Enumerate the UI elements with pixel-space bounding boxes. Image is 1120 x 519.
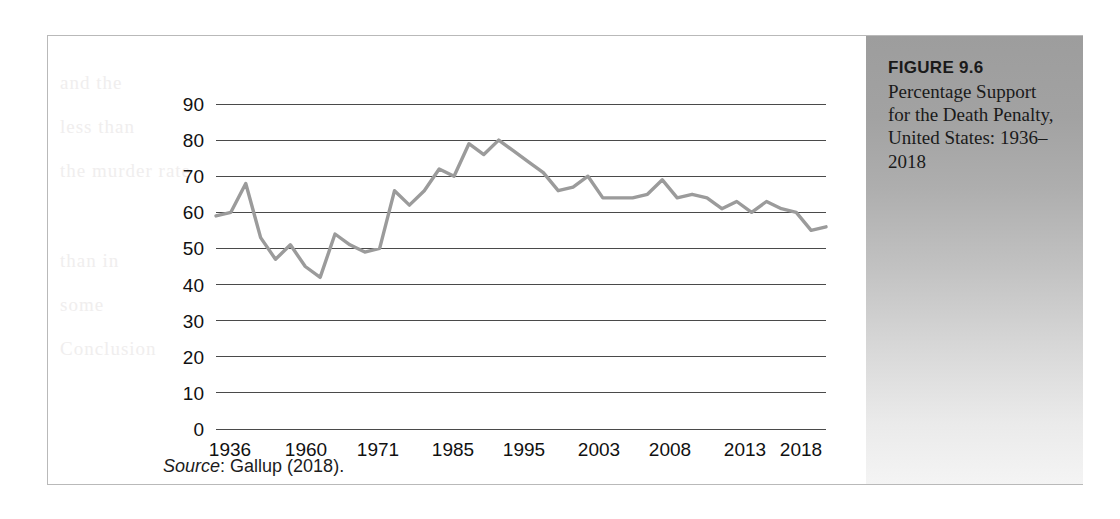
figure-caption-box: FIGURE 9.6 Percentage Support for the De… [866, 36, 1083, 484]
y-axis-tick-label: 30 [183, 311, 204, 332]
y-axis-tick-label: 0 [193, 419, 204, 440]
y-axis-tick-label: 70 [183, 166, 204, 187]
figure-caption-text: Percentage Support for the Death Penalty… [888, 80, 1063, 173]
x-axis-tick-label: 2008 [649, 439, 691, 460]
y-axis-tick-label: 60 [183, 202, 204, 223]
y-axis-tick-label: 50 [183, 238, 204, 259]
source-label: Source [163, 456, 220, 476]
source-separator: : [220, 456, 230, 476]
y-axis-tick-label: 40 [183, 275, 204, 296]
y-axis-tick-label: 90 [183, 94, 204, 115]
x-axis-tick-label: 1971 [357, 439, 399, 460]
source-text: Gallup (2018). [230, 456, 344, 476]
figure-number-label: FIGURE 9.6 [888, 58, 1063, 78]
figure-frame: 0102030405060708090193619601971198519952… [47, 35, 1083, 485]
y-axis-tick-label: 80 [183, 130, 204, 151]
x-axis-tick-label: 2018 [780, 439, 822, 460]
figure-caption-inner: FIGURE 9.6 Percentage Support for the De… [888, 58, 1063, 173]
chart-plot-area: 0102030405060708090193619601971198519952… [48, 36, 866, 484]
y-axis-tick-label: 10 [183, 383, 204, 404]
chart-source-note: Source: Gallup (2018). [163, 456, 344, 477]
line-chart: 0102030405060708090193619601971198519952… [48, 36, 866, 484]
x-axis-tick-label: 2013 [724, 439, 766, 460]
x-axis-tick-label: 2003 [578, 439, 620, 460]
x-axis-tick-label: 1985 [432, 439, 474, 460]
y-axis-tick-label: 20 [183, 347, 204, 368]
x-axis-tick-label: 1995 [503, 439, 545, 460]
data-series-line [216, 140, 826, 277]
